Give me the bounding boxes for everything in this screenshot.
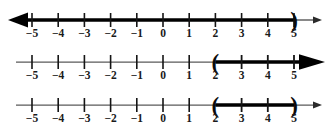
tick-label: 1	[186, 69, 192, 81]
number-line-2: ( −5 −4 −3 −2 −1 0 1 2 3 4 5	[0, 43, 328, 87]
tick-label: 1	[186, 112, 192, 124]
right-arrowhead-2	[299, 54, 325, 70]
tick-label: −1	[131, 69, 144, 81]
right-arrowhead-3	[313, 101, 322, 108]
tick-label: −4	[52, 27, 65, 39]
tick-label: −4	[52, 69, 65, 81]
tick-label: −3	[78, 112, 91, 124]
tick-label: −1	[131, 112, 144, 124]
tick-label: 2	[213, 27, 219, 39]
tick-label: −3	[78, 69, 91, 81]
number-line-3: ( ) −5 −4 −3 −2 −1 0 1 2 3 4 5	[0, 86, 328, 131]
number-line-figure: ) −5 −4 −3 −2 −1 0 1 2 3 4 5	[0, 0, 328, 131]
tick-label: −2	[104, 69, 117, 81]
tick-labels-3: −5 −4 −3 −2 −1 0 1 2 3 4 5	[26, 112, 297, 124]
tick-label: 1	[186, 27, 192, 39]
tick-label: 3	[239, 112, 245, 124]
tick-label: 3	[239, 27, 245, 39]
tick-labels-2: −5 −4 −3 −2 −1 0 1 2 3 4 5	[26, 69, 297, 81]
number-line-1: ) −5 −4 −3 −2 −1 0 1 2 3 4 5	[0, 0, 328, 44]
tick-label: 4	[265, 27, 271, 39]
tick-label: 0	[160, 69, 166, 81]
tick-label: 4	[265, 69, 271, 81]
tick-label: 5	[291, 27, 297, 39]
tick-label: 2	[213, 69, 219, 81]
tick-label: 2	[213, 112, 219, 124]
left-arrowhead-1	[8, 13, 28, 28]
tick-label: 5	[291, 69, 297, 81]
tick-label: 0	[160, 112, 166, 124]
tick-label: −1	[131, 27, 144, 39]
tick-label: 0	[160, 27, 166, 39]
tick-label: −5	[26, 27, 39, 39]
tick-label: −3	[78, 27, 91, 39]
tick-label: −5	[26, 69, 39, 81]
tick-label: −2	[104, 112, 117, 124]
right-arrowhead-1	[313, 16, 322, 23]
tick-label: 3	[239, 69, 245, 81]
tick-label: 4	[265, 112, 271, 124]
tick-labels-1: −5 −4 −3 −2 −1 0 1 2 3 4 5	[26, 27, 297, 39]
tick-label: −2	[104, 27, 117, 39]
tick-label: −4	[52, 112, 65, 124]
tick-label: −5	[26, 112, 39, 124]
tick-label: 5	[291, 112, 297, 124]
